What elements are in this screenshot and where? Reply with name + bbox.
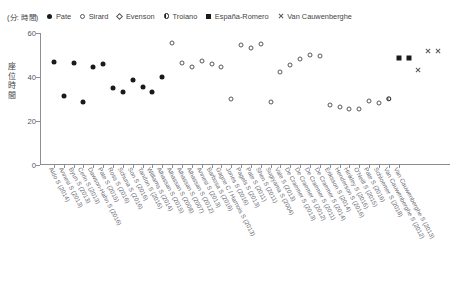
data-point (81, 100, 86, 105)
data-point (425, 48, 431, 54)
data-point (51, 59, 56, 64)
data-point (71, 60, 76, 65)
data-point (298, 57, 303, 62)
data-point (61, 93, 66, 98)
data-point (347, 106, 352, 111)
data-point (396, 56, 401, 61)
cross-icon (278, 13, 284, 19)
data-point (189, 65, 194, 70)
y-axis-tick-label: 40 (28, 73, 36, 82)
legend-label: Sirard (89, 12, 109, 21)
data-point (91, 65, 96, 70)
x-axis-tick-labels: Aldo S (2014)Annesi S (2013)Byun S (2013… (40, 166, 465, 296)
data-point (229, 97, 234, 102)
data-point (101, 61, 106, 66)
filled-square-icon (206, 14, 211, 19)
data-point (367, 99, 372, 104)
data-point (406, 56, 411, 61)
legend-label: Troiano (173, 12, 198, 21)
data-point (209, 61, 214, 66)
filled-circle-icon (47, 14, 52, 19)
data-point (130, 78, 135, 83)
units-label: (分: 時間) (7, 11, 38, 22)
y-axis-tick (36, 121, 40, 122)
data-point (376, 101, 381, 106)
data-point (199, 58, 204, 63)
y-axis-tick (36, 77, 40, 78)
data-point (219, 65, 224, 70)
half-circle-icon (164, 13, 169, 18)
y-axis-tick-label: 60 (28, 29, 36, 38)
data-point (308, 53, 313, 58)
data-point (179, 60, 184, 65)
legend-items: PateSirardEvensonTroianoEspaña-RomeroVan… (47, 12, 361, 21)
data-point (111, 86, 116, 91)
data-point (140, 84, 145, 89)
legend-label: Evenson (126, 12, 155, 21)
open-circle-icon (80, 14, 85, 19)
legend-label: Pate (56, 12, 71, 21)
legend-label: Van Cauwenberghe (287, 12, 352, 21)
data-point (415, 67, 421, 73)
open-diamond-icon (116, 12, 123, 19)
y-axis-tick-label: 20 (28, 117, 36, 126)
legend-item-evenson[interactable]: Evenson (117, 12, 154, 21)
plot-area: 0204060 (40, 33, 450, 165)
legend-item-sirard[interactable]: Sirard (80, 12, 108, 21)
data-point (170, 40, 175, 45)
data-point (327, 102, 332, 107)
data-point (120, 90, 125, 95)
y-axis-line (40, 33, 41, 165)
data-point (357, 106, 362, 111)
data-point (248, 46, 253, 51)
legend-label: España-Romero (215, 12, 269, 21)
chart-root: (分: 時間) PateSirardEvensonTroianoEspaña-R… (0, 0, 465, 301)
data-point (268, 100, 273, 105)
data-point (160, 75, 165, 80)
data-point (386, 96, 391, 101)
data-point (150, 90, 155, 95)
data-point (258, 42, 263, 47)
data-point (337, 104, 342, 109)
data-point (317, 54, 322, 59)
y-axis-tick (36, 33, 40, 34)
legend-item-van-cauwenberghe[interactable]: Van Cauwenberghe (278, 12, 352, 21)
legend-item-espa-a-romero[interactable]: España-Romero (206, 12, 268, 21)
y-axis-tick-labels: 0204060 (2, 33, 36, 165)
chart-legend: (分: 時間) PateSirardEvensonTroianoEspaña-R… (0, 9, 465, 23)
legend-item-troiano[interactable]: Troiano (164, 12, 198, 21)
data-point (435, 48, 441, 54)
legend-item-pate[interactable]: Pate (47, 12, 71, 21)
data-point (288, 62, 293, 67)
data-point (278, 69, 283, 74)
data-point (239, 43, 244, 48)
